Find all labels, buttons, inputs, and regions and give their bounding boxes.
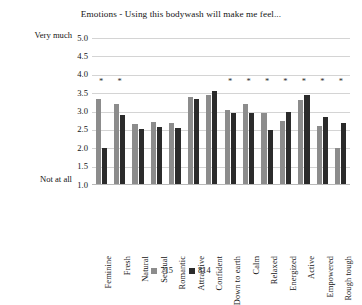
- gridline: [92, 167, 350, 168]
- y-axis-tick-label: 2.0: [54, 144, 88, 153]
- gridline: [92, 130, 350, 131]
- bar-814: [120, 115, 125, 185]
- significance-asterisk: *: [110, 77, 128, 86]
- category-label: Empowered: [326, 256, 335, 297]
- bar-715: [96, 99, 101, 185]
- y-axis-tick-label: 3.0: [54, 107, 88, 116]
- y-axis-tick-label: 2.5: [54, 125, 88, 134]
- legend-label: 814: [198, 266, 211, 275]
- bar-group: [298, 38, 309, 185]
- plot-area: *********: [92, 38, 350, 185]
- bar-814: [139, 129, 144, 185]
- bar-group: [335, 38, 346, 185]
- bar-715: [298, 100, 303, 185]
- chart-legend: 715814: [0, 266, 362, 275]
- significance-asterisk: *: [258, 77, 276, 86]
- bar-group: [96, 38, 107, 185]
- bar-715: [280, 121, 285, 185]
- bar-814: [231, 113, 236, 185]
- bar-814: [268, 130, 273, 185]
- bar-814: [157, 127, 162, 185]
- bar-814: [341, 123, 346, 185]
- bar-715: [261, 113, 266, 185]
- bar-814: [323, 117, 328, 185]
- legend-label: 715: [160, 266, 173, 275]
- bar-715: [206, 95, 211, 185]
- bar-715: [317, 126, 322, 185]
- significance-asterisk: *: [221, 77, 239, 86]
- legend-swatch-icon: [189, 268, 195, 274]
- bar-group: [114, 38, 125, 185]
- bar-group: [243, 38, 254, 185]
- gridline: [92, 93, 350, 94]
- bar-814: [249, 113, 254, 185]
- y-axis-tick-labels: 5.04.54.03.53.02.52.01.51.0: [54, 38, 88, 185]
- bar-715: [151, 122, 156, 185]
- category-label: Down to earth: [233, 256, 242, 305]
- bar-group: [317, 38, 328, 185]
- bar-group: [225, 38, 236, 185]
- chart-title: Emotions - Using this bodywash will make…: [0, 9, 362, 19]
- gridline: [92, 75, 350, 76]
- bar-group: [206, 38, 217, 185]
- legend-entry-814[interactable]: 814: [189, 266, 211, 275]
- bar-814: [286, 112, 291, 186]
- significance-asterisk: *: [332, 77, 350, 86]
- legend-swatch-icon: [151, 268, 157, 274]
- bar-715: [132, 124, 137, 185]
- y-axis-tick-label: 4.5: [54, 52, 88, 61]
- bar-group: [169, 38, 180, 185]
- bar-group: [280, 38, 291, 185]
- legend-entry-715[interactable]: 715: [151, 266, 173, 275]
- bar-715: [188, 97, 193, 185]
- significance-asterisk: *: [313, 77, 331, 86]
- bar-715: [114, 104, 119, 185]
- gridline: [92, 56, 350, 57]
- bar-group: [132, 38, 143, 185]
- bar-715: [169, 123, 174, 185]
- bar-814: [175, 128, 180, 185]
- y-axis-tick-label: 1.5: [54, 162, 88, 171]
- y-axis-tick-label: 3.5: [54, 89, 88, 98]
- significance-asterisk: *: [276, 77, 294, 86]
- gridline: [92, 148, 350, 149]
- bar-715: [335, 148, 340, 185]
- x-axis-category-labels: FeminineFreshNaturalSensualRomanticAttra…: [92, 186, 350, 258]
- y-axis-tick-label: 1.0: [54, 181, 88, 190]
- significance-asterisk: *: [239, 77, 257, 86]
- category-label: Rough tough: [344, 256, 353, 301]
- bar-814: [304, 95, 309, 185]
- bar-715: [243, 104, 248, 185]
- gridline: [92, 112, 350, 113]
- y-axis-tick-label: 4.0: [54, 70, 88, 79]
- bar-group: [151, 38, 162, 185]
- bar-814: [194, 99, 199, 185]
- x-axis-line: [92, 184, 350, 185]
- significance-asterisk: *: [295, 77, 313, 86]
- significance-asterisk: *: [92, 77, 110, 86]
- bar-814: [212, 91, 217, 185]
- bar-715: [225, 110, 230, 185]
- bar-814: [102, 148, 107, 185]
- bar-group: [261, 38, 272, 185]
- gridline: [92, 38, 350, 39]
- bar-group: [188, 38, 199, 185]
- y-axis-tick-label: 5.0: [54, 34, 88, 43]
